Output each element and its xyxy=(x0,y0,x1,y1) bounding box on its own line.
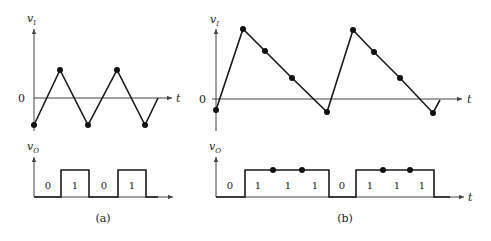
panel-b-input-plot: vI 0 t xyxy=(199,13,472,131)
figure: vI 0 t vO 0 1 0 1 (a) vI 0 t xyxy=(0,0,491,241)
panel-b-vi-label: vI xyxy=(210,13,219,28)
panel-a-t-label: t xyxy=(176,92,181,105)
panel-b-t-label: t xyxy=(467,93,472,106)
panel-a-zero-label: 0 xyxy=(18,92,25,105)
panel-b-square-wave xyxy=(216,170,450,197)
panel-b-sample-dots xyxy=(213,26,436,116)
panel-b-caption: (b) xyxy=(337,212,353,225)
panel-b-vo-label: vO xyxy=(209,140,221,155)
panel-b-sawtooth-wave xyxy=(216,29,440,113)
panel-b-output-plot: vO t 0 1 1 1 0 1 1 1 (b) xyxy=(209,140,473,225)
panel-a-input-plot: vI 0 t xyxy=(18,12,181,131)
panel-b-zero-label: 0 xyxy=(199,93,206,106)
panel-a-vo-label: vO xyxy=(27,140,39,155)
panel-a-bit: 0 xyxy=(45,180,51,191)
panel-b-bit: 1 xyxy=(394,180,400,191)
panel-b-bit: 1 xyxy=(367,180,373,191)
panel-b-bit: 0 xyxy=(339,180,345,191)
panel-a-caption: (a) xyxy=(95,212,110,225)
panel-b-vo-t-label: t xyxy=(468,191,473,204)
panel-a-bit: 1 xyxy=(72,180,78,191)
panel-b-bit: 1 xyxy=(312,180,318,191)
panel-a-output-plot: vO 0 1 0 1 (a) xyxy=(27,140,173,225)
panel-b-bit: 0 xyxy=(227,180,233,191)
panel-a-bit: 0 xyxy=(101,180,107,191)
panel-b-bit: 1 xyxy=(255,180,261,191)
panel-b-bit: 1 xyxy=(419,180,425,191)
panel-b-bit: 1 xyxy=(285,180,291,191)
panel-a-bit: 1 xyxy=(129,180,135,191)
panel-a-square-wave xyxy=(34,170,158,197)
panel-a-vi-label: vI xyxy=(27,12,36,27)
